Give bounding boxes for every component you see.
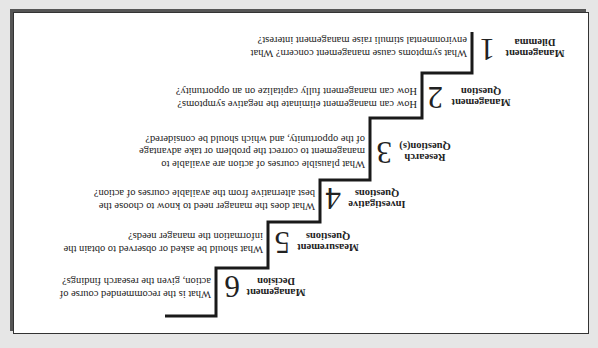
step-1-label: Management Dilemma — [502, 37, 568, 59]
step-label-line: Questions — [343, 188, 411, 199]
step-3-question: What plausible courses of action are ava… — [139, 133, 365, 171]
step-4-number: 4 — [326, 183, 342, 213]
question-line: What does the manager need to know to ch… — [94, 200, 315, 213]
step-label-line: Management — [502, 48, 568, 59]
step-label-line: Question(s) — [393, 141, 457, 152]
step-label-line: Investigative — [343, 199, 411, 210]
step-label-line: Measurement — [294, 242, 362, 253]
step-4-label: Investigative Questions — [343, 188, 411, 210]
question-line: What is the recommended course of — [60, 288, 211, 301]
step-1-number: 1 — [480, 34, 496, 64]
step-4-question: What does the manager need to know to ch… — [94, 187, 315, 212]
step-label-line: Management — [448, 97, 514, 108]
question-line: How can management eliminate the negativ… — [176, 98, 417, 111]
step-label-line: Dilemma — [502, 37, 568, 48]
step-3-number: 3 — [377, 137, 393, 167]
question-line: information the manager needs? — [64, 230, 263, 243]
question-line: What symptoms cause management concern? … — [251, 47, 467, 60]
step-3-label: Research Question(s) — [393, 141, 457, 163]
question-line: action, given the research findings? — [60, 275, 211, 288]
step-5-number: 5 — [275, 227, 291, 257]
question-line: management to correct the problem or tak… — [139, 145, 365, 158]
question-line: What should be asked or observed to obta… — [64, 243, 263, 256]
step-2-number: 2 — [428, 82, 444, 112]
step-label-line: Question — [448, 86, 514, 97]
step-5-question: What should be asked or observed to obta… — [64, 230, 263, 255]
step-label-line: Research — [393, 152, 457, 163]
step-6-label: Management Decision — [241, 276, 311, 298]
step-6-question: What is the recommended course of action… — [60, 275, 211, 300]
step-label-line: Questions — [294, 231, 362, 242]
step-5-label: Measurement Questions — [294, 231, 362, 253]
step-6-number: 6 — [225, 271, 241, 301]
step-label-line: Management — [241, 287, 311, 298]
figure-rotated: Management Dilemma 1 What symptoms cause… — [0, 0, 598, 348]
step-2-label: Management Question — [448, 86, 514, 108]
step-2-question: How can management eliminate the negativ… — [176, 85, 417, 110]
step-1-question: What symptoms cause management concern? … — [251, 34, 467, 59]
step-label-line: Decision — [241, 276, 311, 287]
question-line: What plausible courses of action are ava… — [139, 158, 365, 171]
question-line: of the opportunity, and which should be … — [139, 133, 365, 146]
question-line: How can management fully capitalize on a… — [176, 85, 417, 98]
question-line: best alternative from the available cour… — [94, 187, 315, 200]
question-line: environmental stimuli raise management i… — [251, 34, 467, 47]
